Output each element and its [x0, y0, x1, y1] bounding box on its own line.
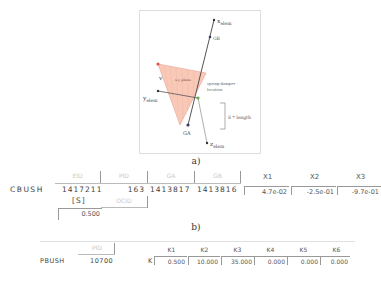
ga-value: 1413817	[150, 185, 190, 194]
z-elem-axis	[198, 98, 207, 143]
cbush-card-name: CBUSH	[10, 185, 44, 194]
ga-label: GA	[183, 130, 191, 136]
header-pid: PID	[101, 172, 147, 179]
header-gb: GB	[195, 172, 240, 179]
s-field[interactable]: 0.500	[58, 208, 102, 220]
k6-field[interactable]: 0.000	[320, 256, 350, 265]
v-label: v	[158, 74, 163, 81]
s-length-bracket	[220, 103, 225, 129]
divider	[240, 171, 241, 183]
spring-damper-label: spring-damper	[207, 81, 236, 86]
header-k6: K6	[320, 246, 353, 253]
pbush-pid-value: 10700	[90, 257, 113, 265]
k5-field[interactable]: 0.000	[287, 256, 320, 265]
y-elem-point	[157, 90, 159, 92]
row1-header-underline	[55, 183, 241, 184]
caption-a: a)	[186, 156, 206, 166]
caption-b: b)	[186, 222, 206, 232]
header-x2: X2	[292, 173, 337, 181]
ocid-underline	[101, 207, 148, 208]
x-elem-point	[213, 19, 215, 21]
z-elem-label: zelem	[210, 140, 225, 149]
pbush-pid-underline	[78, 254, 115, 255]
header-k4: K4	[254, 246, 287, 253]
gb-node	[209, 36, 212, 39]
header-k1: K1	[155, 246, 188, 253]
header-k3: K3	[221, 246, 254, 253]
header-pbush-pid: PID	[80, 244, 114, 251]
pbush-top-rule	[40, 241, 355, 242]
gb-value: 1413816	[197, 185, 237, 194]
k2-field[interactable]: 10.000	[188, 256, 220, 265]
y-elem-label: yelem	[142, 94, 158, 103]
header-s: [S]	[72, 196, 86, 205]
divider	[147, 196, 148, 208]
x3-field[interactable]: -9.7e-01	[337, 186, 381, 195]
k3-field[interactable]: 35.000	[221, 256, 254, 265]
cbush-diagram-svg: xelem GB v x-y plane spring-damper locat…	[140, 11, 260, 153]
header-ocid: OCID	[101, 197, 147, 204]
pbush-card-name: PBUSH	[40, 257, 65, 265]
cbush-geometry-diagram: xelem GB v x-y plane spring-damper locat…	[139, 10, 261, 154]
x1-field[interactable]: 4.7e-02	[244, 186, 289, 195]
spring-damper-point	[196, 96, 199, 99]
header-k5: K5	[287, 246, 320, 253]
v-point	[156, 62, 159, 65]
plane-label: x-y plane	[175, 78, 191, 82]
location-label: location	[207, 87, 223, 92]
k1-field[interactable]: 0.500	[154, 256, 187, 265]
k4-field[interactable]: 0.000	[254, 256, 287, 265]
header-k2: K2	[188, 246, 221, 253]
header-x3: X3	[338, 173, 381, 181]
x-elem-label: xelem	[217, 17, 232, 26]
eid-value: 1417211	[62, 185, 102, 194]
pid-value: 163	[123, 185, 145, 194]
k-label: K	[148, 257, 153, 265]
header-x1: X1	[245, 173, 290, 181]
z-elem-point	[206, 142, 208, 144]
gb-label: GB	[213, 36, 221, 41]
s-length-label: S * length	[228, 115, 251, 120]
ga-node	[186, 123, 189, 126]
header-eid: EID	[55, 172, 100, 179]
header-ga: GA	[148, 172, 194, 179]
x2-field[interactable]: -2.5e-01	[291, 186, 336, 195]
